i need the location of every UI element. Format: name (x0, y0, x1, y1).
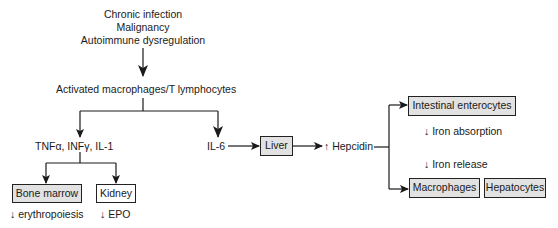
node-kidney: Kidney (96, 184, 136, 203)
cause-malignancy: Malignancy (83, 21, 203, 33)
effect-erythropoiesis: ↓ erythropoiesis (10, 208, 84, 220)
effect-iron-absorption: ↓ Iron absorption (424, 125, 502, 137)
effect-iron-release: ↓ Iron release (424, 158, 488, 170)
il6-label: IL-6 (207, 140, 225, 152)
node-macrophages: Macrophages (409, 178, 480, 198)
cause-chronic-infection: Chronic infection (83, 8, 203, 20)
effect-hepcidin: ↑ Hepcidin (324, 140, 373, 152)
node-bone-marrow: Bone marrow (12, 184, 82, 203)
node-intestinal-enterocytes: Intestinal enterocytes (408, 96, 516, 116)
activated-cells-label: Activated macrophages/T lymphocytes (56, 83, 236, 95)
cytokines-left-label: TNFα, INFγ, IL-1 (35, 140, 113, 152)
node-liver: Liver (260, 136, 293, 156)
node-hepatocytes: Hepatocytes (484, 178, 546, 198)
effect-epo: ↓ EPO (100, 208, 130, 220)
cause-autoimmune: Autoimmune dysregulation (73, 34, 213, 46)
